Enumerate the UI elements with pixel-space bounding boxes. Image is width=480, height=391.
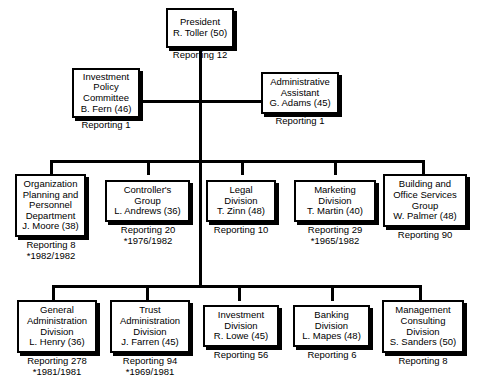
node-investment-division[interactable]: Investment Division R. Lowe (45) bbox=[203, 305, 279, 347]
connector-drop-l1 bbox=[52, 285, 55, 301]
reporting-count: Reporting 90 bbox=[398, 229, 452, 240]
connector-drop-u1 bbox=[50, 160, 53, 175]
node-person: R. Lowe (45) bbox=[214, 331, 268, 342]
caption-president: Reporting 12 bbox=[150, 50, 250, 61]
node-person: J. Farren (45) bbox=[121, 337, 179, 348]
node-investment-policy-committee[interactable]: Investment Policy Committee B. Fern (46) bbox=[72, 68, 140, 118]
node-general-administration-division[interactable]: General Administration Division L. Henry… bbox=[17, 300, 97, 353]
caption-management-consulting-division: Reporting 8 bbox=[377, 356, 469, 367]
node-management-consulting-division[interactable]: Management Consulting Division S. Sander… bbox=[382, 300, 464, 353]
node-marketing-division[interactable]: Marketing Division T. Martin (40) bbox=[294, 180, 376, 222]
caption-investment-division: Reporting 56 bbox=[195, 350, 287, 361]
node-banking-division[interactable]: Banking Division L. Mapes (48) bbox=[293, 305, 370, 347]
node-person: J. Moore (38) bbox=[22, 221, 79, 232]
connector-drop-l4 bbox=[331, 285, 334, 301]
connector-bus-lower bbox=[52, 285, 422, 288]
reporting-count: Reporting 12 bbox=[173, 49, 227, 60]
caption-building-office-services: Reporting 90 bbox=[379, 230, 471, 241]
node-title-line2: Administration bbox=[27, 316, 87, 327]
caption-administrative-assistant: Reporting 1 bbox=[250, 116, 350, 127]
node-person: B. Fern (46) bbox=[81, 104, 132, 115]
node-person: L. Mapes (48) bbox=[302, 331, 361, 342]
reporting-count: Reporting 56 bbox=[214, 349, 268, 360]
reporting-count: Reporting 278 bbox=[27, 355, 87, 366]
node-trust-administration-division[interactable]: Trust Administration Division J. Farren … bbox=[110, 300, 190, 353]
connector-drop-u2 bbox=[147, 160, 150, 175]
node-title-line2: Administration bbox=[120, 316, 180, 327]
node-person: L. Henry (36) bbox=[29, 337, 84, 348]
connector-drop-u4 bbox=[334, 160, 337, 175]
node-person: S. Sanders (50) bbox=[390, 337, 457, 348]
reporting-count: Reporting 8 bbox=[398, 355, 447, 366]
reporting-count: Reporting 1 bbox=[275, 115, 324, 126]
node-president[interactable]: President R. Toller (50) bbox=[166, 8, 234, 48]
caption-banking-division: Reporting 6 bbox=[286, 350, 378, 361]
reporting-count: Reporting 8 bbox=[26, 239, 75, 250]
reporting-count: Reporting 6 bbox=[307, 349, 356, 360]
node-person: L. Andrews (36) bbox=[114, 206, 181, 217]
node-controllers-group[interactable]: Controller's Group L. Andrews (36) bbox=[105, 180, 190, 222]
node-title-line2: Consulting bbox=[401, 316, 446, 327]
connector-drop-l5 bbox=[419, 285, 422, 301]
connector-drop-u5 bbox=[422, 160, 425, 175]
years-label: *1965/1982 bbox=[289, 236, 381, 247]
node-title-line1: Organization bbox=[24, 179, 78, 190]
connector-bus-upper bbox=[50, 160, 425, 163]
caption-controllers-group: Reporting 20 *1976/1982 bbox=[102, 225, 194, 247]
node-person: W. Palmer (48) bbox=[393, 211, 456, 222]
years-label: *1982/1982 bbox=[5, 251, 97, 262]
caption-organization-planning-personnel: Reporting 8 *1982/1982 bbox=[5, 240, 97, 262]
node-person: R. Toller (50) bbox=[173, 28, 227, 39]
node-person: T. Zinn (48) bbox=[217, 206, 265, 217]
connector-staff-right bbox=[199, 100, 261, 103]
caption-marketing-division: Reporting 29 *1965/1982 bbox=[289, 225, 381, 247]
connector-president-spine bbox=[199, 48, 202, 163]
connector-mid-spine bbox=[199, 160, 202, 288]
caption-trust-administration-division: Reporting 94 *1969/1981 bbox=[104, 356, 196, 378]
node-organization-planning-personnel[interactable]: Organization Planning and Personnel Depa… bbox=[15, 174, 86, 237]
connector-staff-left bbox=[140, 100, 201, 103]
node-administrative-assistant[interactable]: Administrative Assistant G. Adams (45) bbox=[261, 72, 339, 114]
years-label: *1976/1982 bbox=[102, 236, 194, 247]
org-chart: President R. Toller (50) Reporting 12 In… bbox=[0, 0, 480, 391]
years-label: *1981/1981 bbox=[11, 367, 103, 378]
node-title-line2: Office Services bbox=[393, 190, 457, 201]
connector-drop-u3 bbox=[241, 160, 244, 175]
reporting-count: Reporting 29 bbox=[308, 224, 362, 235]
connector-drop-l2 bbox=[146, 285, 149, 301]
caption-legal-division: Reporting 10 bbox=[195, 225, 287, 236]
node-legal-division[interactable]: Legal Division T. Zinn (48) bbox=[206, 180, 276, 222]
reporting-count: Reporting 1 bbox=[81, 119, 130, 130]
reporting-count: Reporting 94 bbox=[123, 355, 177, 366]
caption-investment-policy-committee: Reporting 1 bbox=[56, 120, 156, 131]
node-person: T. Martin (40) bbox=[307, 206, 363, 217]
connector-drop-l3 bbox=[238, 285, 241, 301]
node-building-office-services[interactable]: Building and Office Services Group W. Pa… bbox=[383, 174, 467, 227]
caption-general-administration-division: Reporting 278 *1981/1981 bbox=[11, 356, 103, 378]
reporting-count: Reporting 20 bbox=[121, 224, 175, 235]
years-label: *1969/1981 bbox=[104, 367, 196, 378]
node-person: G. Adams (45) bbox=[269, 98, 330, 109]
reporting-count: Reporting 10 bbox=[214, 224, 268, 235]
